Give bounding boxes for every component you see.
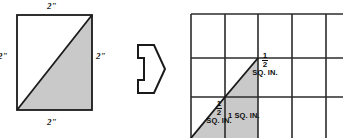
dimension-label-bottom: 2" xyxy=(47,118,57,127)
fraction-one-half-lower: 1 2 xyxy=(216,100,222,117)
fraction-numerator-lower: 1 xyxy=(216,100,222,108)
figure-root: 2" 2" 2" 2" xyxy=(0,0,343,138)
dimension-label-top: 2" xyxy=(47,2,57,11)
unit-label-upper: SQ. IN. xyxy=(248,69,282,77)
fraction-one-half-upper: 1 2 xyxy=(262,52,268,69)
arrow-shape xyxy=(138,45,165,93)
arrow-panel xyxy=(118,0,180,138)
square-diagram-graphic xyxy=(0,0,118,138)
dimension-label-right: 2" xyxy=(96,52,106,61)
right-arrow-icon xyxy=(118,0,180,138)
unit-label-lower: SQ. IN. xyxy=(202,117,236,125)
grid-panel: 1 2 SQ. IN. 1 SQ. IN. 1 2 SQ. IN. xyxy=(180,0,343,138)
fraction-numerator-upper: 1 xyxy=(262,52,268,60)
dimension-label-left: 2" xyxy=(0,52,8,61)
label-half-square-upper: 1 2 SQ. IN. xyxy=(248,52,282,77)
label-half-square-lower: 1 2 SQ. IN. xyxy=(202,100,236,125)
left-square-panel: 2" 2" 2" 2" xyxy=(0,0,118,138)
